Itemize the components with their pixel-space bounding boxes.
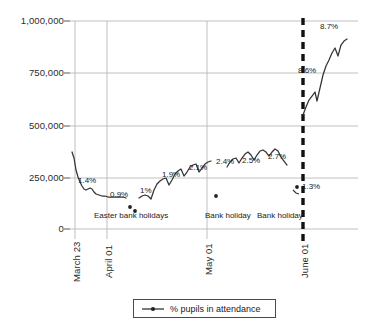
pct-label-1: 1% [140,186,152,195]
pct-label-1-3: 1.3% [302,182,320,191]
pct-label-2-5: 2.5% [242,156,260,165]
pct-label-0-9: 0.9% [110,190,128,199]
pct-label-2-1: 2.1% [189,163,207,172]
easter-bank-holidays-note: Easter bank holidays [94,211,168,220]
horizontal-gridlines [64,21,358,229]
legend-label-pupils-attendance: % pupils in attendance [170,304,261,314]
bank-holiday-note-late-may: Bank holiday [257,211,303,220]
late-may-bank-holiday-marker [295,185,299,189]
pct-label-8-6: 8.6% [298,66,316,75]
y-axis-ticks [64,21,70,229]
pct-label-1-9: 1.9% [162,170,180,179]
legend-line-marker-icon [141,304,165,314]
may-bank-holiday-marker [214,194,218,198]
pct-label-1-4: 1.4% [78,176,96,185]
series-segment-june-surge [303,39,347,115]
late-may-connector [293,190,299,194]
chart-legend: % pupils in attendance [133,299,276,318]
attendance-line-chart: 1,000,000 750,000 500,000 250,000 0 Marc… [0,0,365,328]
plot-area [0,0,365,328]
pct-label-2-4: 2.4% [216,157,234,166]
pct-label-2-7: 2.7% [268,152,286,161]
vertical-gridlines [75,21,207,239]
pct-label-8-7: 8.7% [320,22,338,31]
bank-holiday-note-may: Bank holiday [205,211,251,220]
easter-marker-1 [128,205,132,209]
